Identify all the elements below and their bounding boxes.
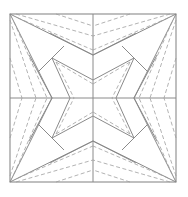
crease-pattern-diagram: [0, 0, 188, 197]
quadrant-top-left: [10, 14, 93, 98]
quadrant-top-right: [93, 14, 176, 98]
quadrant-bottom-left: [10, 98, 93, 182]
quadrant-bottom-right: [93, 98, 176, 182]
center-axes: [10, 14, 176, 182]
